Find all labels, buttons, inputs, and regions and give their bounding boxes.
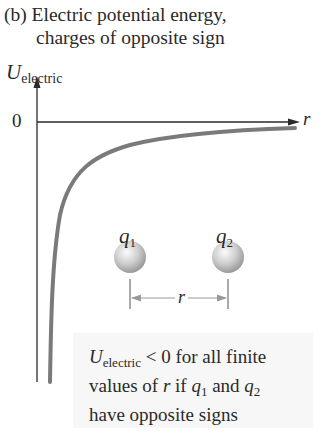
separation-label: r bbox=[175, 287, 188, 308]
x-axis-arrow-icon bbox=[288, 119, 300, 126]
note-line-2: values of r if q1 and q2 bbox=[89, 374, 313, 403]
arrow-left-icon bbox=[131, 295, 141, 302]
y-axis-arrow-icon bbox=[34, 76, 41, 88]
annotation-box: Uelectric < 0 for all finite values of r… bbox=[73, 333, 313, 428]
q1-label: q1 bbox=[119, 224, 136, 251]
arrow-right-icon bbox=[217, 295, 227, 302]
note-line-3: have opposite signs bbox=[89, 403, 313, 426]
note-line-1: Uelectric < 0 for all finite bbox=[89, 345, 313, 374]
q2-label: q2 bbox=[216, 224, 233, 251]
